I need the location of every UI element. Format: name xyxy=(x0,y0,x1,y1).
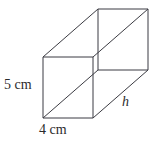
cuboid-figure: 5 cm 4 cm h xyxy=(0,0,151,144)
height-label: 5 cm xyxy=(4,78,32,92)
depth-edge-bottom-left xyxy=(43,70,98,118)
depth-edge-top-left xyxy=(43,9,98,57)
depth-edge-bottom-right xyxy=(93,70,148,118)
width-label: 4 cm xyxy=(39,123,67,137)
depth-label: h xyxy=(122,95,129,109)
depth-edge-top-right xyxy=(93,9,148,57)
cuboid-drawing xyxy=(0,0,151,144)
